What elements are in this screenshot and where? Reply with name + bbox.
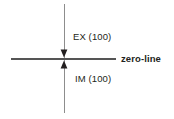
im-annotation-label: IM (100) — [75, 73, 111, 84]
arrow-up-icon — [61, 61, 68, 69]
arrow-down-icon — [61, 50, 68, 58]
zero-line-label: zero-line — [121, 53, 161, 64]
ex-annotation-label: EX (100) — [73, 31, 111, 42]
diagram-canvas: EX (100) IM (100) zero-line — [0, 0, 174, 119]
